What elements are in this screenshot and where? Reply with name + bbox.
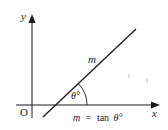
line-label-m: m (88, 53, 96, 65)
line-m (43, 29, 136, 117)
scan-artifact (128, 74, 130, 78)
formula-arg: θ° (114, 112, 123, 123)
formula-fn: tan (97, 112, 109, 123)
y-axis-arrow-icon (29, 14, 36, 23)
slope-diagram: y x O m θ° m = tan θ° (0, 0, 168, 130)
y-axis-label: y (20, 10, 26, 22)
angle-label: θ° (71, 90, 80, 101)
slope-formula: m = tan θ° (73, 112, 123, 123)
formula-equals: = (86, 112, 92, 123)
x-axis-label: x (151, 107, 157, 119)
formula-lhs: m (73, 112, 80, 123)
scan-artifact (146, 79, 148, 83)
origin-label: O (20, 106, 28, 118)
